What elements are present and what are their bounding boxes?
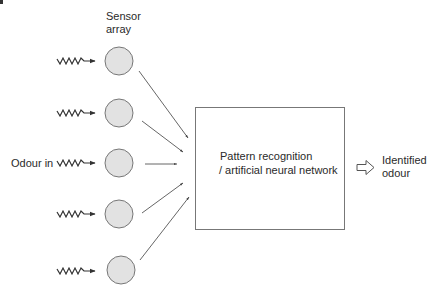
processor-label-line1: Pattern recognition bbox=[220, 150, 312, 163]
odour-input-arrows bbox=[57, 58, 95, 274]
odour-wave-arrow-2 bbox=[57, 110, 95, 116]
sensor-3 bbox=[105, 149, 133, 177]
connector-4 bbox=[142, 183, 183, 213]
odour-in-label: Odour in bbox=[11, 157, 53, 170]
sensor-4 bbox=[105, 200, 133, 228]
sensor-connectors bbox=[139, 71, 189, 260]
sensor-array bbox=[105, 47, 135, 284]
connector-1 bbox=[139, 71, 188, 138]
output-hollow-arrow-icon bbox=[357, 161, 374, 175]
sensor-2 bbox=[105, 99, 133, 127]
connector-5 bbox=[140, 197, 189, 260]
odour-wave-arrow-1 bbox=[57, 58, 95, 64]
odour-wave-arrow-4 bbox=[57, 211, 95, 217]
sensor-1 bbox=[105, 47, 133, 75]
sensor-array-label-line2: array bbox=[106, 23, 131, 36]
odour-wave-arrow-3 bbox=[57, 160, 95, 166]
odour-wave-arrow-5 bbox=[57, 268, 95, 274]
output-label-line2: odour bbox=[382, 167, 410, 180]
sensor-5 bbox=[107, 256, 135, 284]
diagram-canvas bbox=[0, 0, 437, 297]
output-label-line1: Identified bbox=[382, 154, 427, 167]
sensor-array-label-line1: Sensor bbox=[106, 10, 141, 23]
processor-label-line2: / artificial neural network bbox=[219, 164, 338, 177]
connector-2 bbox=[142, 121, 183, 152]
